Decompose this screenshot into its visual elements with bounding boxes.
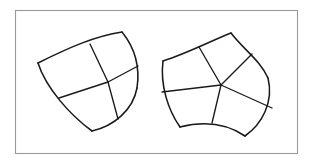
diagram-figure: Two curvilinear polygons with subdivided… (0, 0, 313, 163)
outer-border (16, 11, 298, 154)
diagram-canvas (0, 0, 313, 163)
